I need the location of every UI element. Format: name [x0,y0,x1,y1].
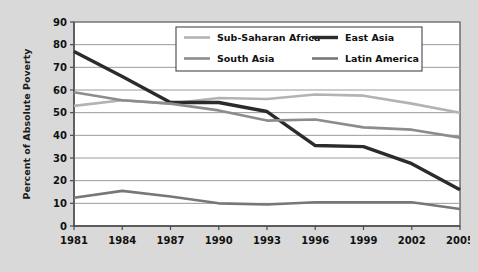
x-axis-tick-label: 2002 [398,235,426,246]
y-axis-title: Percent of Absolute Poverty [21,48,32,200]
x-axis-tick-label: 1999 [350,235,378,246]
poverty-line-chart: 0102030405060708090198119841987199019931… [8,6,470,258]
legend-label-latin-america: Latin America [345,53,419,64]
y-axis-tick-label: 0 [60,221,67,232]
y-axis-tick-label: 50 [53,107,67,118]
y-axis-tick-label: 80 [53,39,67,50]
x-axis-tick-label: 1981 [60,235,88,246]
legend-label-east-asia: East Asia [345,32,394,43]
x-axis-tick-label: 2005 [446,235,470,246]
y-axis-tick-label: 70 [53,62,67,73]
legend-label-south-asia: South Asia [217,53,274,64]
legend-label-sub-saharan-africa: Sub-Saharan Africa [217,32,320,43]
chart-figure: 0102030405060708090198119841987199019931… [0,0,478,272]
x-axis-tick-label: 1984 [108,235,136,246]
y-axis-tick-label: 60 [53,85,67,96]
x-axis-tick-label: 1987 [157,235,185,246]
y-axis-tick-label: 40 [53,130,67,141]
y-axis-tick-label: 30 [53,153,67,164]
y-axis-tick-label: 90 [53,17,67,28]
x-axis-tick-label: 1990 [205,235,233,246]
y-axis-tick-label: 20 [53,175,67,186]
y-axis-tick-label: 10 [53,198,67,209]
chart-figure-inner: 0102030405060708090198119841987199019931… [8,6,470,258]
x-axis-tick-label: 1996 [301,235,329,246]
x-axis-tick-label: 1993 [253,235,281,246]
